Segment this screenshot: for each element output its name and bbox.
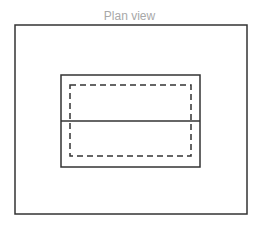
plan-view-diagram	[0, 0, 259, 229]
outer-boundary-rect	[15, 25, 247, 214]
